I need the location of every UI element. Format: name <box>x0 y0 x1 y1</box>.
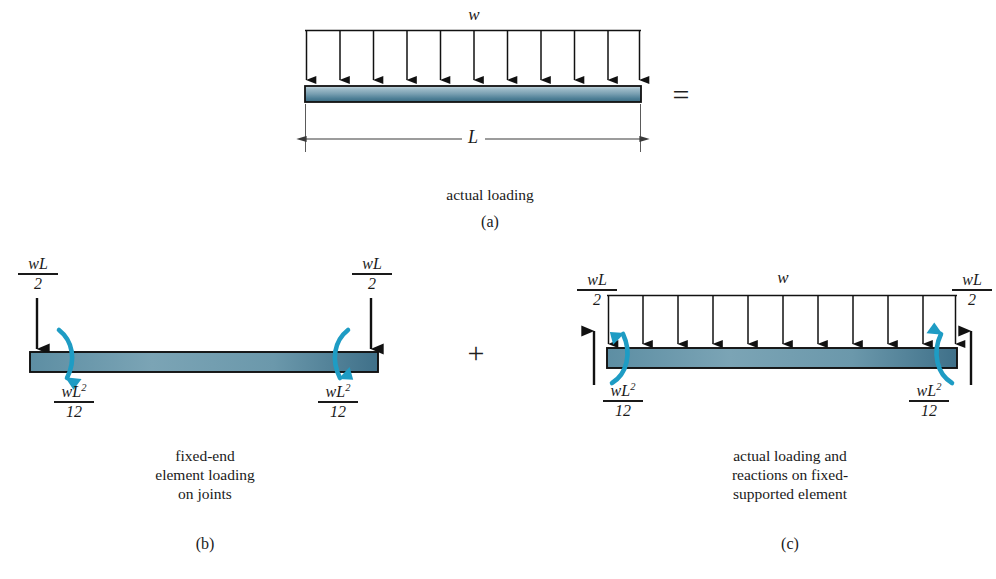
beam-b <box>30 352 378 372</box>
panel-b-letter: (b) <box>155 535 255 553</box>
beam-a <box>305 86 641 102</box>
load-symbol-a: w <box>462 5 486 25</box>
fraction-numerator: wL <box>946 272 996 289</box>
fraction-denominator: 12 <box>903 402 955 419</box>
fraction-denominator: 12 <box>597 402 649 419</box>
fraction-numerator: wL2 <box>48 384 100 401</box>
panel-b-caption-line3: on joints <box>178 485 232 502</box>
end-force-label-left-b: wL 2 <box>12 256 64 292</box>
end-moment-label-right-b: wL2 12 <box>312 384 364 420</box>
panel-c-caption-line2: reactions on fixed- <box>732 466 848 483</box>
fraction-numerator: wL <box>12 256 64 273</box>
panel-c-caption-line3: supported element <box>733 485 847 502</box>
end-force-label-left-c: wL 2 <box>571 272 623 308</box>
panel-c-caption: actual loading andreactions on fixed-sup… <box>680 447 900 504</box>
end-moment-label-left-b: wL2 12 <box>48 384 100 420</box>
plus-sign: + <box>458 338 494 368</box>
fraction-denominator: 12 <box>48 403 100 420</box>
panel-b-caption-line2: element loading <box>155 466 254 483</box>
moment-exponent: 2 <box>936 381 941 392</box>
equals-sign: = <box>663 80 699 110</box>
panel-b-caption-line1: fixed-end <box>175 447 234 464</box>
distributed-load-arrows-a <box>307 31 640 80</box>
moment-exponent: 2 <box>345 382 350 393</box>
span-symbol-a: L <box>461 127 485 148</box>
fraction-denominator: 12 <box>312 403 364 420</box>
panel-c-graphics <box>594 296 971 386</box>
end-moment-label-right-c: wL2 12 <box>903 383 955 419</box>
beam-c <box>607 348 957 368</box>
panel-c-letter: (c) <box>740 535 840 553</box>
moment-numerator-base: wL <box>611 382 631 399</box>
fraction-denominator: 2 <box>346 275 398 292</box>
fraction-numerator: wL <box>346 256 398 273</box>
end-moment-label-left-c: wL2 12 <box>597 383 649 419</box>
fraction-numerator: wL2 <box>903 383 955 400</box>
load-symbol-c: w <box>771 268 795 288</box>
panel-a-caption: actual loading <box>390 186 590 205</box>
moment-exponent: 2 <box>81 382 86 393</box>
panel-b-caption: fixed-endelement loadingon joints <box>110 447 300 504</box>
moment-numerator-base: wL <box>62 383 82 400</box>
end-force-label-right-c: wL 2 <box>946 272 996 308</box>
figure-canvas: w L actual loading (a) = wL 2 wL 2 wL2 1… <box>0 0 996 579</box>
fraction-numerator: wL2 <box>312 384 364 401</box>
distributed-load-arrows-c <box>609 296 956 344</box>
moment-numerator-base: wL <box>326 383 346 400</box>
fraction-denominator: 2 <box>946 291 996 308</box>
fraction-denominator: 2 <box>571 291 623 308</box>
panel-a-letter: (a) <box>440 213 540 231</box>
panel-b-graphics <box>30 298 378 378</box>
moment-numerator-base: wL <box>917 382 937 399</box>
end-force-label-right-b: wL 2 <box>346 256 398 292</box>
moment-exponent: 2 <box>630 381 635 392</box>
fraction-numerator: wL <box>571 272 623 289</box>
fraction-numerator: wL2 <box>597 383 649 400</box>
fraction-denominator: 2 <box>12 275 64 292</box>
panel-c-caption-line1: actual loading and <box>733 447 847 464</box>
